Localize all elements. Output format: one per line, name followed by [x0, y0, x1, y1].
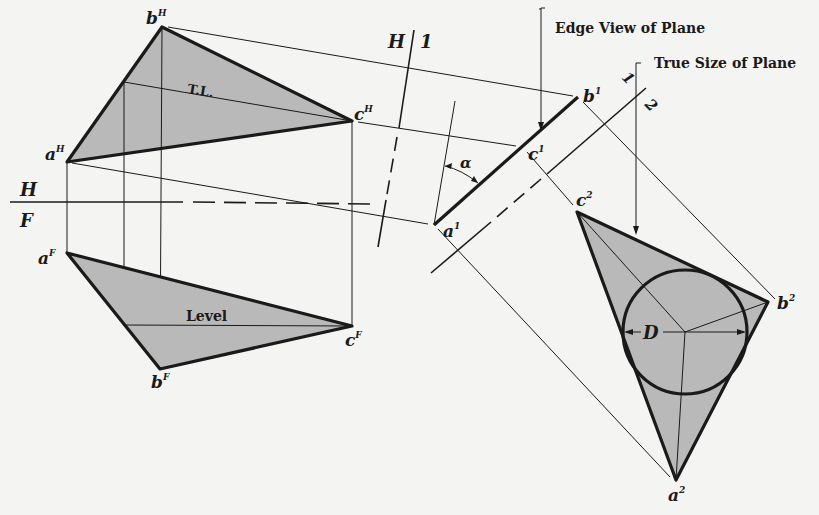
one-two-fold-line-solid-upper: [547, 88, 646, 174]
label-a-f: aF: [38, 248, 56, 268]
one-two-label-1: 1: [618, 68, 638, 88]
hf-label-f: F: [19, 210, 34, 231]
h1-fold-line: H 1: [378, 30, 433, 247]
front-view: aF bF cF Level: [38, 248, 362, 392]
hf-fold-line-dashed: [193, 202, 370, 204]
hf-label-h: H: [19, 179, 38, 200]
level-label: Level: [186, 308, 227, 324]
one-two-fold-line-solid-lower: [431, 222, 491, 273]
h1-label-1: 1: [420, 31, 433, 52]
angle-arrow-right-icon: [471, 176, 478, 183]
descriptive-geometry-drawing: aH bH cH T.L. H F aF bF cF Level H 1: [0, 0, 819, 515]
angle-arrow-left-icon: [445, 163, 452, 169]
projector-a-to-a1: [72, 163, 428, 224]
angle-label: α: [460, 154, 472, 172]
label-c-f: cF: [345, 330, 362, 350]
label-a-h: aH: [45, 144, 65, 164]
label-b-h: bH: [146, 8, 167, 28]
edge-view-callout-leader: [541, 8, 545, 127]
h1-fold-line-dashed: [386, 137, 397, 200]
diameter-label: D: [642, 322, 659, 343]
one-two-fold-line-dashed: [491, 179, 541, 222]
aux-view-1: α a1 b1 c1 Edge View of Plane: [434, 8, 705, 241]
true-size-callout-arrow-icon: [633, 226, 639, 235]
edge-view-line: [434, 97, 578, 225]
label-c-h: cH: [354, 104, 373, 124]
projector-c-to-c1: [358, 122, 516, 146]
label-b-1: b1: [583, 86, 601, 106]
one-two-label-2: 2: [640, 94, 661, 115]
h1-label-h: H: [387, 31, 406, 52]
true-size-callout-text: True Size of Plane: [654, 55, 796, 71]
angle-reference-line: [434, 101, 455, 225]
true-size-callout-leader: [636, 63, 641, 231]
aux-view-2: D c2 b2 a2 True Size of Plane: [576, 55, 796, 505]
edge-view-callout-text: Edge View of Plane: [555, 20, 705, 36]
label-c-1: c1: [528, 144, 545, 164]
label-b-f: bF: [151, 372, 170, 392]
true-size-plane-fill: [577, 212, 768, 480]
label-b-2: b2: [777, 293, 795, 313]
projector-c1-to-c2: [527, 152, 573, 205]
label-a-1: a1: [443, 221, 460, 241]
label-a-2: a2: [668, 485, 685, 505]
h1-fold-line-solid-lower: [378, 200, 386, 247]
label-c-2: c2: [576, 190, 593, 210]
